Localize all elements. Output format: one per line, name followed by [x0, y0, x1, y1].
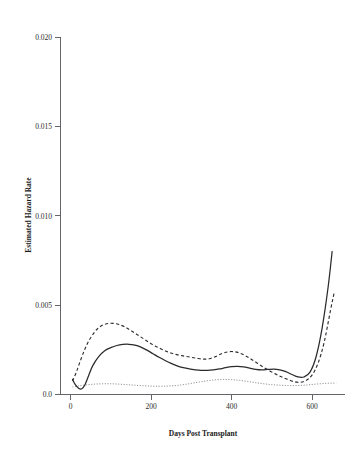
series-solid-curve — [73, 252, 333, 390]
x-axis-tick-labels: 0 200 400 600 — [69, 402, 318, 411]
hazard-rate-figure: 0.0 0.005 0.010 0.015 0.020 0 200 400 60… — [0, 0, 360, 460]
y-tick-label-2: 0.010 — [35, 212, 52, 221]
chart-series-group — [73, 252, 337, 390]
y-axis-title: Estimated Hazard Rate — [24, 177, 33, 253]
series-dotted-curve — [73, 379, 337, 387]
y-tick-label-4: 0.020 — [35, 33, 52, 42]
hazard-rate-chart: 0.0 0.005 0.010 0.015 0.020 0 200 400 60… — [0, 0, 360, 460]
y-tick-label-3: 0.015 — [35, 122, 52, 131]
x-axis-ticks — [71, 395, 313, 401]
x-axis-title: Days Post Transplant — [169, 429, 238, 438]
x-tick-label-0: 0 — [69, 402, 73, 411]
x-tick-label-3: 600 — [306, 402, 318, 411]
x-tick-label-1: 200 — [145, 402, 157, 411]
y-tick-label-1: 0.005 — [35, 301, 52, 310]
x-tick-label-2: 400 — [226, 402, 238, 411]
series-dashed-curve — [73, 293, 335, 383]
y-axis-tick-labels: 0.0 0.005 0.010 0.015 0.020 — [35, 33, 52, 399]
y-axis-ticks — [55, 37, 61, 395]
y-tick-label-0: 0.0 — [43, 390, 53, 399]
